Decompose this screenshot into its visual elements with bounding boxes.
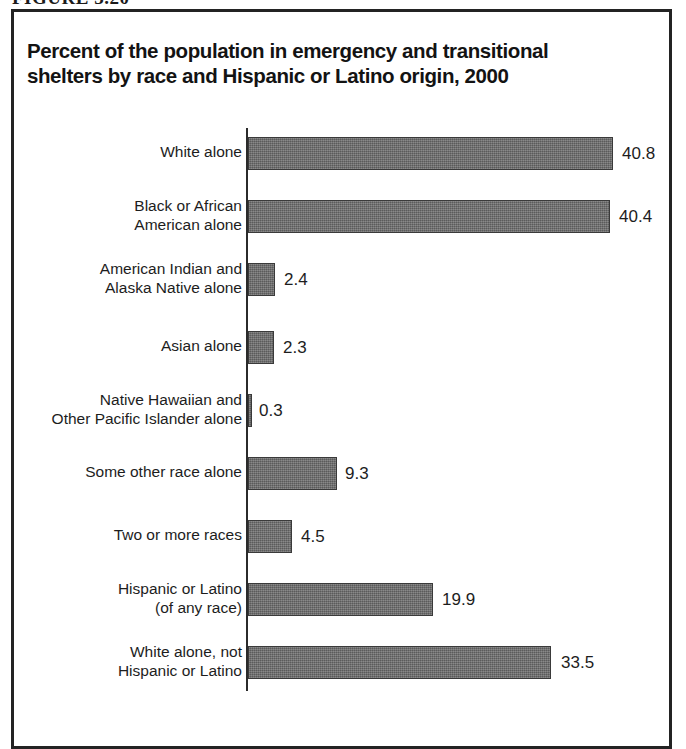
chart-title: Percent of the population in emergency a… [27, 38, 597, 88]
bar [248, 394, 252, 427]
bar-category-label: Black or African American alone [134, 196, 242, 234]
bar-value-label: 40.4 [619, 207, 652, 227]
bar-value-label: 2.3 [283, 338, 307, 358]
bar-value-label: 9.3 [345, 464, 369, 484]
bar [248, 520, 292, 553]
bar-value-label: 40.8 [622, 144, 655, 164]
bar-chart-plot-area: White alone 40.8 Black or African Americ… [0, 128, 686, 693]
bar-value-label: 2.4 [284, 270, 308, 290]
bar-category-label: Hispanic or Latino (of any race) [118, 579, 242, 617]
figure-caption: FIGURE 3.20 [12, 0, 129, 9]
bar-value-label: 19.9 [442, 590, 475, 610]
bar [248, 457, 337, 490]
bar-value-label: 33.5 [561, 653, 594, 673]
bar [248, 137, 613, 170]
bar-category-label: White alone [160, 142, 242, 161]
bar [248, 583, 433, 616]
bar-category-label: American Indian and Alaska Native alone [100, 259, 242, 297]
bar-category-label: White alone, not Hispanic or Latino [118, 642, 242, 680]
bar-value-label: 0.3 [259, 401, 283, 421]
bar-category-label: Native Hawaiian and Other Pacific Island… [52, 390, 242, 428]
bar [248, 646, 551, 679]
bar [248, 263, 275, 296]
bar-category-label: Two or more races [114, 525, 242, 544]
bar [248, 200, 610, 233]
bar-value-label: 4.5 [301, 527, 325, 547]
bar-category-label: Some other race alone [85, 462, 242, 481]
bar [248, 331, 274, 364]
bar-category-label: Asian alone [161, 336, 242, 355]
